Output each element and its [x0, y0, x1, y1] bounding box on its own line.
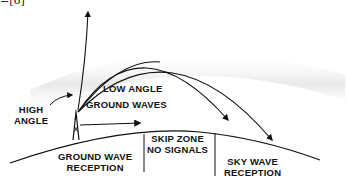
antenna-tower-icon	[73, 110, 79, 140]
radio-propagation-diagram: =[6]	[0, 0, 347, 181]
ground-wave-reception-label: GROUND WAVERECEPTION	[58, 152, 132, 173]
sky-wave-reception-label: SKY WAVERECEPTION	[224, 157, 281, 178]
low-angle-label: LOW ANGLE	[103, 84, 163, 95]
ionosphere-band	[30, 53, 345, 115]
ground-wave-arrow	[80, 123, 140, 125]
skip-zone-label: SKIP ZONENO SIGNALS	[147, 134, 208, 155]
high-angle-label: HIGHANGLE	[14, 105, 48, 126]
ground-waves-label: GROUND WAVES	[86, 100, 167, 111]
high-angle-wave-arrow	[78, 12, 88, 110]
